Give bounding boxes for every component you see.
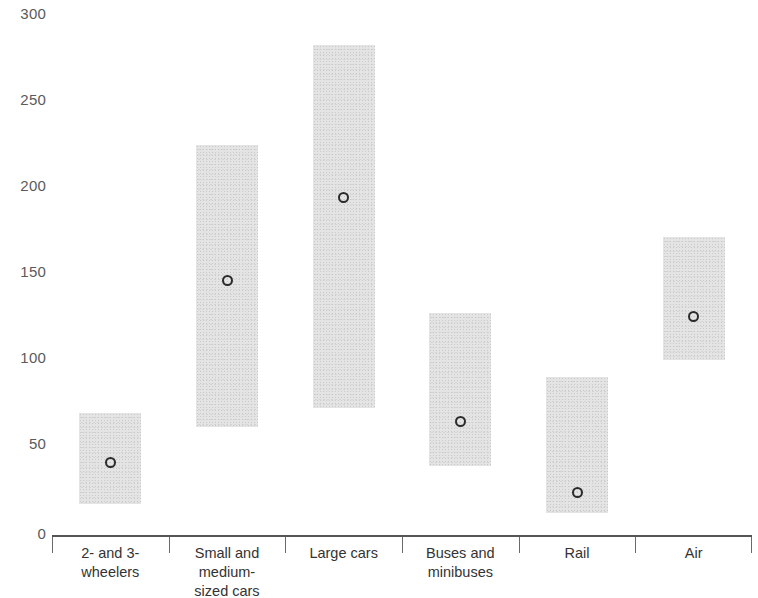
point-marker-two-and-three-wheelers [105, 457, 116, 468]
category-label-two-and-three-wheelers: 2- and 3- wheelers [52, 544, 169, 582]
point-marker-small-and-medium-sized-cars [222, 275, 233, 286]
range-bar-buses-and-minibuses [429, 313, 491, 466]
range-bar-air [663, 237, 725, 359]
category-label-small-and-medium-sized-cars: Small and medium- sized cars [169, 544, 286, 598]
range-bar-large-cars [313, 45, 375, 408]
category-label-air: Air [635, 544, 752, 563]
plot-area [0, 0, 758, 541]
category-label-buses-and-minibuses: Buses and minibuses [402, 544, 519, 582]
point-marker-rail [572, 487, 583, 498]
point-marker-buses-and-minibuses [455, 416, 466, 427]
category-label-large-cars: Large cars [285, 544, 402, 563]
category-label-rail: Rail [519, 544, 636, 563]
range-bar-chart: 300 250 200 150 100 50 0 2- and 3- wheel… [0, 0, 758, 598]
